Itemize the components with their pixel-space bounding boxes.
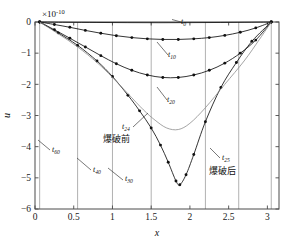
x-tick-label-3: 1.5 (145, 212, 157, 222)
series-marker-t10 (208, 36, 211, 39)
series-marker-t20 (192, 74, 195, 77)
series-curve-t10 (40, 22, 272, 40)
chart-figure: 00.511.522.530−1−2−3−4−5−6xu×10-10t0t10t… (0, 0, 287, 247)
annotation-label-t30: t30 (125, 174, 133, 184)
series-marker-t24 (185, 173, 188, 176)
leader-t20 (157, 87, 167, 100)
series-marker-t24 (192, 153, 195, 156)
annotation-label-t25: t25 (222, 153, 230, 163)
series-curve-t25 (40, 22, 272, 130)
annotation-caption-t25: 爆破后 (209, 165, 236, 176)
x-tick-label-2: 1 (110, 212, 115, 222)
series-marker-t10 (146, 37, 149, 40)
x-tick-label-1: 0.5 (68, 212, 80, 222)
plot-frame (35, 22, 279, 209)
series-marker-t24 (250, 40, 253, 43)
x-axis-title: x (154, 227, 160, 238)
series-marker-t10 (53, 23, 56, 26)
annotation-label-t24: t24 (122, 122, 130, 132)
y-axis-exponent-label: ×10-10 (42, 8, 65, 20)
series-marker-t10 (239, 31, 242, 34)
series-marker-t10 (115, 34, 118, 37)
annotation-label-t20: t20 (167, 95, 175, 105)
series-curve-t24 (40, 22, 272, 185)
series-marker-t20 (146, 74, 149, 77)
y-axis-title: u (1, 113, 12, 118)
series-marker-t20 (254, 39, 257, 42)
series-curve-t20 (40, 22, 272, 78)
series-marker-t20 (208, 69, 211, 72)
x-tick-label-4: 2 (188, 212, 193, 222)
series-marker-t24 (150, 127, 153, 130)
leader-t40 (77, 158, 91, 170)
y-tick-label-1: −1 (21, 48, 31, 58)
annotation-label-t40: t40 (93, 165, 101, 175)
series-marker-t10 (161, 38, 164, 41)
series-marker-t10 (177, 38, 180, 41)
x-tick-label-0: 0 (33, 212, 38, 222)
series-marker-t10 (130, 36, 133, 39)
series-marker-t20 (239, 52, 242, 55)
annotation-label-t10: t10 (168, 50, 176, 60)
y-tick-label-5: −5 (21, 173, 31, 183)
series-marker-t24 (138, 109, 141, 112)
annotation-caption-t24: 爆破前 (103, 133, 130, 144)
series-marker-t24 (204, 120, 207, 123)
leader-t25 (210, 148, 220, 158)
series-marker-t24 (159, 144, 162, 147)
series-marker-t24 (175, 180, 178, 183)
y-tick-label-2: −2 (21, 80, 31, 90)
series-marker-t20 (115, 62, 118, 65)
series-marker-t20 (84, 45, 87, 48)
y-tick-label-6: −6 (21, 204, 31, 214)
y-tick-label-0: 0 (26, 17, 31, 27)
series-marker-t10 (84, 29, 87, 32)
series-marker-t24 (235, 61, 238, 64)
series-marker-t24 (178, 183, 181, 186)
x-tick-label-6: 3 (265, 212, 270, 222)
series-marker-t10 (192, 37, 195, 40)
series-marker-t10 (99, 32, 102, 35)
leader-t30 (108, 168, 123, 180)
series-marker-t20 (177, 76, 180, 79)
displacement-line-chart: 00.511.522.530−1−2−3−4−5−6xu×10-10t0t10t… (0, 0, 287, 247)
series-marker-t20 (130, 69, 133, 72)
series-marker-t20 (223, 62, 226, 65)
series-marker-t10 (223, 34, 226, 37)
annotation-label-t0: t0 (181, 17, 186, 27)
series-marker-t10 (254, 26, 257, 29)
series-marker-t24 (167, 161, 170, 164)
x-tick-label-5: 2.5 (223, 212, 235, 222)
leader-t10 (157, 42, 168, 55)
y-tick-label-3: −3 (21, 111, 31, 121)
series-marker-t20 (99, 54, 102, 57)
series-marker-t20 (161, 76, 164, 79)
y-tick-label-4: −4 (21, 142, 31, 152)
annotation-label-t60: t60 (52, 145, 60, 155)
series-marker-t10 (68, 26, 71, 29)
